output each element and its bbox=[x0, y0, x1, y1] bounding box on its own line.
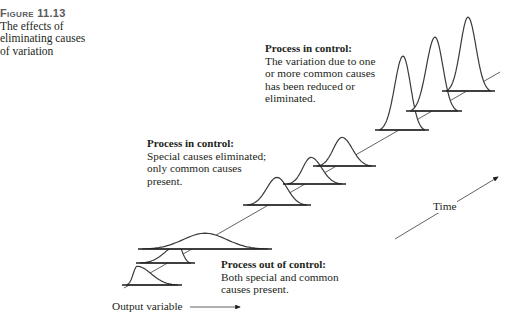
output-variable-label: Output variable bbox=[112, 300, 183, 313]
annotation-top: Process in control: The variation due to… bbox=[265, 42, 375, 105]
distribution-curve bbox=[317, 137, 372, 166]
distribution-curve bbox=[126, 266, 178, 285]
annotation-line: only common causes bbox=[147, 162, 266, 175]
annotation-heading: Process in control: bbox=[265, 42, 375, 55]
annotation-line: causes present. bbox=[221, 283, 339, 296]
distribution-curve bbox=[446, 17, 491, 91]
annotation-line: or more common causes bbox=[265, 67, 375, 80]
annotation-line: The variation due to one bbox=[265, 55, 375, 68]
annotation-line: present. bbox=[147, 175, 266, 188]
annotation-bottom: Process out of control: Both special and… bbox=[221, 258, 339, 296]
annotation-heading: Process in control: bbox=[147, 137, 266, 150]
time-label: Time bbox=[432, 200, 457, 213]
annotation-line: has been reduced or bbox=[265, 80, 375, 93]
distribution-curve bbox=[142, 233, 268, 249]
annotation-line: Both special and common bbox=[221, 271, 339, 284]
annotation-heading: Process out of control: bbox=[221, 258, 339, 271]
annotation-line: eliminated. bbox=[265, 92, 375, 105]
annotation-middle: Process in control: Special causes elimi… bbox=[147, 137, 266, 187]
annotation-line: Special causes eliminated; bbox=[147, 150, 266, 163]
